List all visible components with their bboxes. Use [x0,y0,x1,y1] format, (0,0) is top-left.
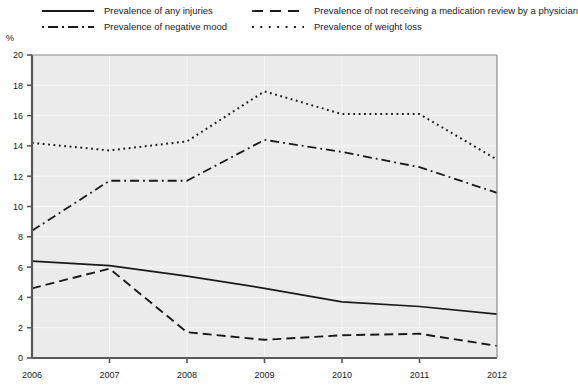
y-axis-ticks: 02468101214161820 [13,50,32,363]
svg-text:14: 14 [13,141,23,151]
x-axis-ticks: 2006200720082009201020112012 [22,358,507,380]
svg-text:2008: 2008 [177,370,197,380]
svg-text:12: 12 [13,172,23,182]
svg-text:16: 16 [13,111,23,121]
svg-text:2009: 2009 [254,370,274,380]
svg-text:20: 20 [13,50,23,60]
svg-text:2012: 2012 [487,370,507,380]
svg-text:0: 0 [18,353,23,363]
svg-text:6: 6 [18,263,23,273]
svg-text:2006: 2006 [22,370,42,380]
grid-lines [32,55,497,358]
svg-text:10: 10 [13,202,23,212]
svg-text:8: 8 [18,232,23,242]
svg-text:2007: 2007 [99,370,119,380]
svg-text:2011: 2011 [410,370,429,380]
svg-text:4: 4 [18,293,23,303]
svg-text:18: 18 [13,81,23,91]
svg-text:2: 2 [18,323,23,333]
svg-text:2010: 2010 [332,370,352,380]
